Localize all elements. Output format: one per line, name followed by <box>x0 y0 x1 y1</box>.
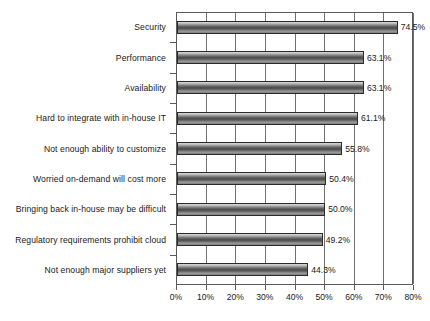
x-axis-tick-label: 10% <box>197 292 214 302</box>
x-axis-tick <box>265 285 266 290</box>
category-label: Bringing back in-house may be difficult <box>0 204 166 214</box>
x-axis-tick-label: 20% <box>227 292 244 302</box>
x-axis-tick-label: 50% <box>316 292 333 302</box>
category-label: Worried on-demand will cost more <box>0 174 166 184</box>
y-axis-tick <box>170 164 176 165</box>
bar <box>177 233 323 246</box>
y-axis-tick <box>170 194 176 195</box>
bar <box>177 263 308 276</box>
category-label: Performance <box>0 53 166 63</box>
x-axis-tick <box>413 285 414 290</box>
value-label: 50.0% <box>328 204 352 214</box>
value-label: 74.5% <box>401 22 425 32</box>
category-label: Not enough major suppliers yet <box>0 265 166 275</box>
category-label: Availability <box>0 83 166 93</box>
x-axis-tick <box>176 285 177 290</box>
value-label: 50.4% <box>329 174 353 184</box>
bar <box>177 81 364 94</box>
bar <box>177 172 326 185</box>
value-label: 44.3% <box>311 265 335 275</box>
x-axis-tick <box>295 285 296 290</box>
y-axis-tick <box>170 133 176 134</box>
category-label: Not enough ability to customize <box>0 144 166 154</box>
x-axis-tick <box>235 285 236 290</box>
x-axis-tick-label: 80% <box>404 292 421 302</box>
bar <box>177 112 358 125</box>
category-axis-labels: SecurityPerformanceAvailabilityHard to i… <box>0 12 172 285</box>
gridline <box>413 13 414 284</box>
x-axis-tick <box>354 285 355 290</box>
y-axis-tick <box>170 255 176 256</box>
y-axis-tick <box>170 42 176 43</box>
category-label: Hard to integrate with in-house IT <box>0 113 166 123</box>
value-label: 61.1% <box>361 113 385 123</box>
category-label: Security <box>0 22 166 32</box>
bar <box>177 142 342 155</box>
bar <box>177 21 398 34</box>
bar <box>177 203 325 216</box>
y-axis-tick <box>170 73 176 74</box>
x-axis-tick-label: 30% <box>256 292 273 302</box>
y-axis-tick <box>170 224 176 225</box>
x-axis-tick-label: 0% <box>170 292 182 302</box>
y-axis-tick <box>170 103 176 104</box>
bar-chart: SecurityPerformanceAvailabilityHard to i… <box>0 0 430 321</box>
x-axis-tick-label: 70% <box>375 292 392 302</box>
x-axis-tick-label: 60% <box>345 292 362 302</box>
x-axis-tick-label: 40% <box>286 292 303 302</box>
x-axis-tick <box>206 285 207 290</box>
value-label: 49.2% <box>326 235 350 245</box>
bar <box>177 51 364 64</box>
x-axis-tick <box>324 285 325 290</box>
value-label: 63.1% <box>367 53 391 63</box>
category-label: Regulatory requirements prohibit cloud <box>0 235 166 245</box>
x-axis-tick <box>383 285 384 290</box>
value-label: 55.8% <box>345 144 369 154</box>
value-label: 63.1% <box>367 83 391 93</box>
